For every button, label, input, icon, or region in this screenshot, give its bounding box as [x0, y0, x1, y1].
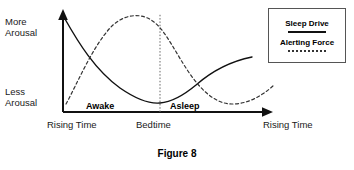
y-axis: [58, 9, 68, 112]
y-axis-bottom-label-line1: Less: [5, 86, 37, 97]
figure-caption: Figure 8: [0, 148, 354, 159]
legend-item-alerting-force: Alerting Force: [269, 38, 345, 52]
x-tick-bedtime: Bedtime: [136, 119, 171, 130]
legend: Sleep Drive Alerting Force: [268, 8, 346, 63]
phase-label-asleep: Asleep: [170, 101, 200, 111]
sleep-drive-curve: [65, 19, 252, 103]
y-axis-bottom-label-line2: Arousal: [5, 97, 37, 108]
legend-item-sleep-drive: Sleep Drive: [269, 19, 345, 33]
y-axis-bottom-label: Less Arousal: [5, 86, 37, 108]
x-tick-rising-time-left: Rising Time: [47, 119, 97, 130]
figure-container: More Arousal Less Arousal Rising Time Be…: [0, 0, 354, 170]
legend-label-alerting-force: Alerting Force: [280, 38, 334, 47]
y-axis-top-label-line2: Arousal: [5, 27, 37, 38]
legend-swatch-dashed-line: [288, 50, 326, 52]
y-axis-top-label-line1: More: [5, 16, 37, 27]
y-axis-top-label: More Arousal: [5, 16, 37, 38]
legend-swatch-solid-line: [288, 31, 326, 33]
legend-label-sleep-drive: Sleep Drive: [285, 19, 329, 28]
phase-label-awake: Awake: [86, 101, 114, 111]
x-tick-rising-time-right: Rising Time: [263, 119, 313, 130]
